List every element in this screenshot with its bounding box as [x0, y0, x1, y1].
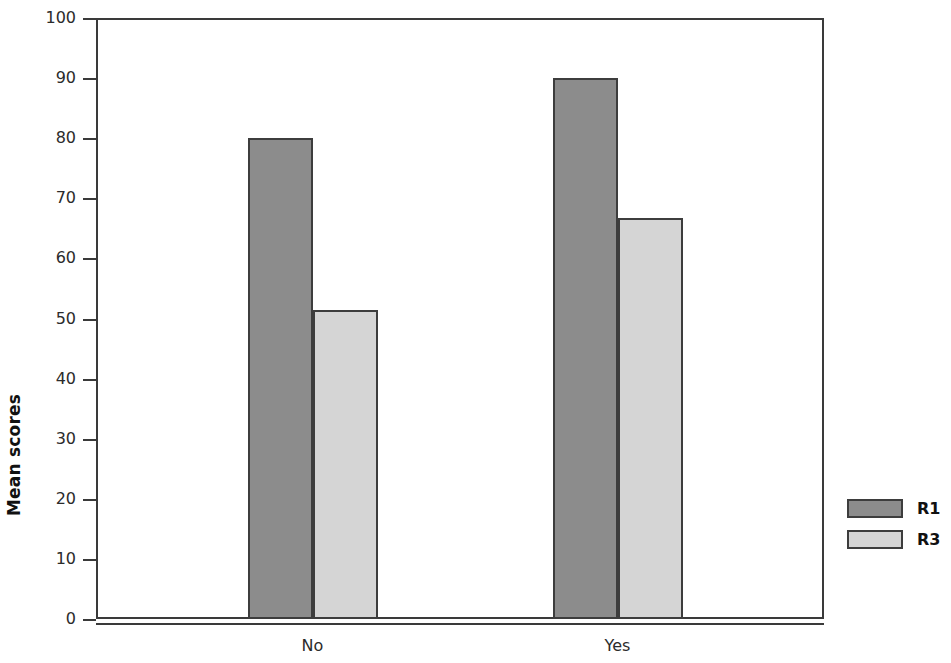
- legend-item-r1[interactable]: R1: [845, 496, 951, 527]
- x-axis-label-yes: Yes: [558, 634, 678, 658]
- bar-chart-figure: Mean scores 0102030405060708090100 NoYes…: [0, 0, 951, 663]
- legend-label-r3: R3: [917, 527, 940, 552]
- y-axis-tick-mark: [83, 319, 96, 321]
- y-axis-tick-mark: [83, 258, 96, 260]
- bar-no-r3[interactable]: [313, 310, 378, 620]
- y-axis-tick-label: 90: [14, 67, 76, 89]
- x-axis-baseline: [96, 623, 824, 625]
- y-axis-tick-mark: [83, 439, 96, 441]
- y-axis-tick-label: 40: [14, 368, 76, 390]
- y-axis-tick-label: 70: [14, 187, 76, 209]
- y-axis-tick-mark: [83, 18, 96, 20]
- y-axis-tick-mark: [83, 198, 96, 200]
- y-axis-tick-label: 100: [14, 7, 76, 29]
- y-axis-tick-mark: [83, 619, 96, 621]
- y-axis-tick-label: 20: [14, 488, 76, 510]
- plot-area: [96, 18, 824, 619]
- legend-swatch-r1: [847, 499, 903, 518]
- y-axis-tick-label: 30: [14, 428, 76, 450]
- bar-yes-r1[interactable]: [553, 78, 618, 619]
- y-axis-tick-mark: [83, 559, 96, 561]
- legend-label-r1: R1: [917, 496, 940, 521]
- y-axis-tick-mark: [83, 78, 96, 80]
- x-axis-label-no: No: [253, 634, 373, 658]
- y-axis-tick-mark: [83, 379, 96, 381]
- legend-swatch-r3: [847, 530, 903, 549]
- legend: R1R3: [845, 496, 951, 558]
- y-axis-tick-label: 80: [14, 127, 76, 149]
- y-axis-tick-label: 50: [14, 308, 76, 330]
- y-axis-tick-label: 60: [14, 247, 76, 269]
- bar-yes-r3[interactable]: [618, 218, 683, 619]
- y-axis-tick-label: 10: [14, 548, 76, 570]
- y-axis-tick-mark: [83, 138, 96, 140]
- y-axis-tick-label: 0: [14, 608, 76, 630]
- legend-item-r3[interactable]: R3: [845, 527, 951, 558]
- bar-no-r1[interactable]: [248, 138, 313, 619]
- y-axis-tick-mark: [83, 499, 96, 501]
